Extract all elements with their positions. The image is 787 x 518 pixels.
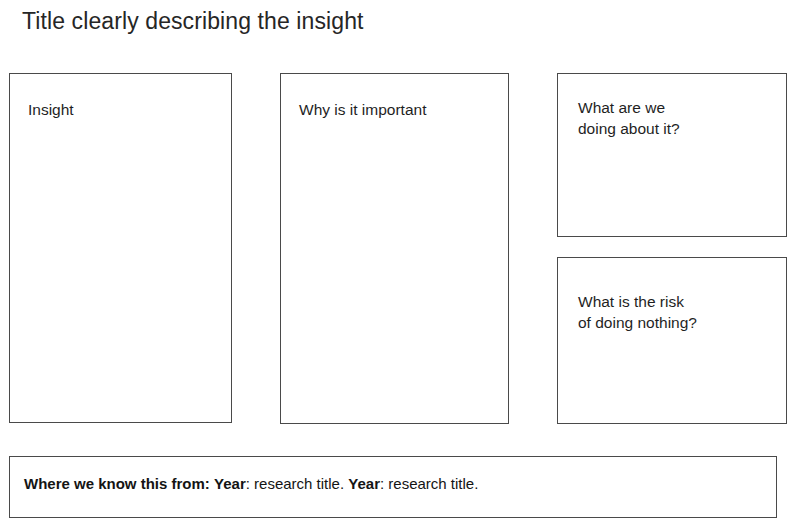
- source-2-title: research title.: [384, 475, 478, 492]
- panel-doing-about-it-label: What are we doing about it?: [578, 97, 680, 139]
- panel-why-important-label: Why is it important: [299, 99, 426, 120]
- panel-risk-of-nothing[interactable]: What is the risk of doing nothing?: [557, 257, 787, 424]
- sources-heading: Where we know this from:: [24, 475, 210, 492]
- panel-insight[interactable]: Insight: [9, 73, 232, 423]
- source-1-year: Year: [214, 475, 246, 492]
- panel-insight-label: Insight: [28, 99, 74, 120]
- panel-why-important[interactable]: Why is it important: [280, 73, 509, 424]
- panel-doing-about-it[interactable]: What are we doing about it?: [557, 73, 787, 237]
- sources-bar[interactable]: Where we know this from: Year: research …: [9, 456, 777, 518]
- sources-text: Where we know this from: Year: research …: [24, 474, 478, 494]
- source-1-title: research title.: [250, 475, 344, 492]
- source-2-year: Year: [348, 475, 380, 492]
- panel-risk-of-nothing-label: What is the risk of doing nothing?: [578, 291, 697, 333]
- page-title: Title clearly describing the insight: [22, 7, 364, 35]
